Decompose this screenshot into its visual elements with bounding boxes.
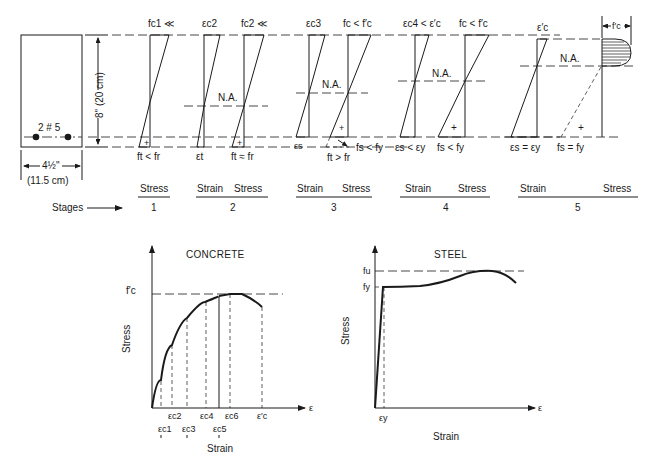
concrete-fc-label: f′c [126,285,136,296]
stage-5-stress-bottom-label: fs = fy [557,142,584,153]
steel-y-label: Stress [340,317,351,345]
stage-5-header-strain: Strain [520,183,546,194]
steel-chart: STEEL fu fy Stress ε εy Strain [340,246,542,442]
stage-5: N.A. ε′c εs = εy + f′c fs = fy [505,16,636,153]
stage-3-strain-bottom-label: εs [294,141,303,151]
stage-4-header-stress: Stress [458,183,486,194]
stage-1-stress: + fc1 ≪ ft < fr [137,18,174,162]
stage-3-na-label: N.A. [322,79,341,90]
svg-text:+: + [237,138,242,148]
rebar-label: 2 # 5 [38,122,61,133]
stage-5-strain-bottom-label: εs = εy [510,142,540,153]
steel-fy-label: fy [363,282,371,292]
concrete-ec1-label: εc1 [158,424,172,434]
concrete-ecprime-label: ε′c [257,411,268,421]
stage-2-header-strain: Strain [197,183,223,194]
stage-5-number: 5 [575,202,581,213]
concrete-x-label: Strain [207,443,233,454]
stage-3-strain-top-label: εc3 [306,18,321,29]
stage-2-stress-top-label: fc2 ≪ [241,18,267,29]
stage-1-number: 1 [151,202,157,213]
width-dimension-label: 4½" [42,160,60,171]
stage-5-na-label: N.A. [560,53,579,64]
stages-label: Stages [52,202,83,213]
steel-fu-label: fu [363,266,371,276]
stage-4-number: 4 [443,202,449,213]
stage-3-stress-top-label: fc < f′c [343,18,372,29]
stage-1-header-stress: Stress [140,183,168,194]
stage-4: N.A. εc4 < ε′c εs < εy + fc < f′c fs < f… [395,18,489,153]
rebar-dot [65,134,72,141]
stage-3-number: 3 [331,202,337,213]
svg-text:+: + [578,122,584,133]
stage-5-strain-top-label: ε′c [537,22,548,33]
stage-3-stress-bottom-label: fs < fy [356,142,383,153]
concrete-x-symbol: ε [309,403,313,413]
stage-2-number: 2 [230,202,236,213]
steel-stress-strain-curve [375,271,516,408]
stage-4-strain-bottom-label: εs < εy [395,142,425,153]
concrete-ec3-label: εc3 [182,424,196,434]
stage-2-stress-bottom-label: ft ≈ fr [231,151,254,162]
stage-2-strain-bottom-label: εt [196,151,203,162]
stage-2-header-stress: Stress [234,183,262,194]
stage-4-stress-bottom-label: fs < fy [437,142,464,153]
concrete-ec6-label: εc6 [225,411,239,421]
concrete-chart-title: CONCRETE [186,249,245,260]
stage-3-stress-crack-label: ft > fr [327,152,351,163]
concrete-ec2-label: εc2 [168,411,182,421]
steel-ey-label: εy [379,413,388,423]
stage-1-top-label: fc1 ≪ [148,18,174,29]
steel-x-symbol: ε [538,403,542,413]
steel-chart-title: STEEL [434,249,467,260]
stage-2-strain-top-label: εc2 [202,18,217,29]
svg-text:+: + [339,123,344,133]
stage-4-header-strain: Strain [405,183,431,194]
beam-cross-section: 2 # 5 8" (20 cm) 4½" (11.5 cm) [21,35,108,186]
stage-4-stress-top-label: fc < f′c [459,18,488,29]
concrete-ec4-label: εc4 [200,411,214,421]
stage-2: N.A. εc2 εt + fc2 ≪ ft ≈ fr [184,18,268,162]
stage-2-na-label: N.A. [218,92,237,103]
stage-1-bottom-label: ft < fr [137,151,161,162]
steel-x-label: Strain [433,431,459,442]
svg-text:+: + [451,122,457,133]
stage-5-header-stress: Stress [603,183,631,194]
concrete-ec5-label: εc5 [213,424,227,434]
stage-headers: Stress Strain Stress Strain Stress Strai… [52,183,638,213]
rebar-dot [33,134,40,141]
stage-3-header-strain: Strain [297,183,323,194]
width-metric-label: (11.5 cm) [27,175,69,186]
diagram-canvas: 2 # 5 8" (20 cm) 4½" (11.5 cm) + fc1 ≪ f… [0,0,654,465]
stage-4-strain-top-label: εc4 < ε′c [403,18,441,29]
stage-5-stress-top-label: f′c [612,21,621,31]
concrete-stress-strain-curve [152,294,262,408]
svg-text:+: + [144,138,149,148]
stage-4-na-label: N.A. [432,68,451,79]
height-dimension-label: 8" (20 cm) [94,72,105,118]
concrete-y-label: Stress [121,325,132,353]
stage-3-header-stress: Stress [342,183,370,194]
concrete-chart: CONCRETE f′c Stress ε εc1 εc2 εc3 εc4 εc… [121,246,313,454]
stage-3: N.A. εc3 εs + fc < f′c fs < fy ft > fr [294,18,383,163]
